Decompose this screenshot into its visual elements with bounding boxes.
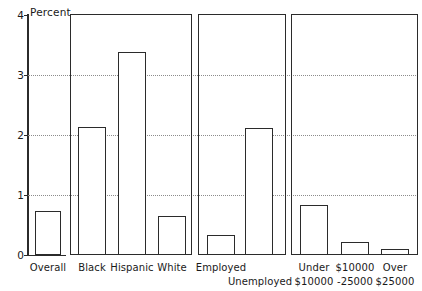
bar-hispanic (118, 52, 146, 255)
bar-white (158, 216, 186, 255)
y-tick-label-1: 1 (8, 189, 24, 201)
y-axis-title: Percent (30, 6, 71, 18)
bar-unemployed (245, 128, 273, 255)
bar-chart: Percent 4 3 2 1 0 Overall Black Hispanic… (0, 0, 422, 291)
bar-under-10000 (300, 205, 328, 255)
bar-over-25000 (381, 249, 409, 255)
y-tick-label-4: 4 (8, 9, 24, 21)
category-label-over-25000-line2: $25000 (367, 276, 422, 287)
y-tick-label-2: 2 (8, 129, 24, 141)
bar-employed (207, 235, 235, 255)
category-label-unemployed: Unemployed (227, 276, 293, 287)
category-label-white: White (144, 262, 200, 273)
y-tick-label-3: 3 (8, 69, 24, 81)
y-tick-mark-4 (24, 15, 28, 16)
y-tick-label-0: 0 (8, 249, 24, 261)
bar-overall (35, 211, 61, 255)
bar-black (78, 127, 106, 255)
category-label-over-25000-line1: Over (367, 262, 422, 273)
category-label-employed: Employed (193, 262, 249, 273)
bar-10000-25000 (341, 242, 369, 255)
